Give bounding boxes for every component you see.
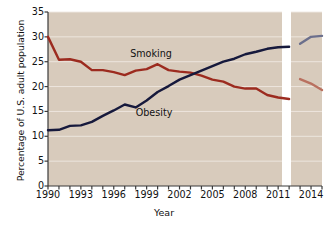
x-tick-label: 2011: [266, 190, 290, 200]
x-axis-tick-labels: 199019931996199920022005200820112014: [0, 188, 332, 204]
plot-background-left: [48, 12, 282, 186]
x-tick-label: 2002: [167, 190, 191, 200]
x-tick-label: 2014: [299, 190, 323, 200]
chart-figure: Percentage of U.S. adult population 0510…: [0, 0, 332, 234]
x-tick-label: 2005: [200, 190, 224, 200]
plot-background-right: [291, 12, 322, 186]
x-tick-label: 1990: [36, 190, 60, 200]
series-annotation-smoking: Smoking: [130, 48, 172, 59]
x-axis-title: Year: [48, 207, 280, 218]
x-tick-label: 2008: [233, 190, 257, 200]
x-tick-label: 1996: [102, 190, 126, 200]
series-annotation-obesity: Obesity: [136, 107, 173, 118]
x-tick-label: 1999: [134, 190, 158, 200]
x-tick-label: 1993: [69, 190, 93, 200]
